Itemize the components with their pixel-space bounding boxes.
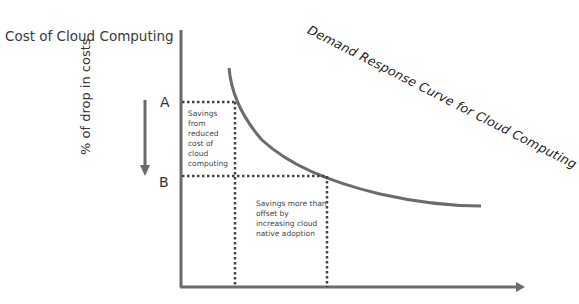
down-arrow-icon — [140, 165, 150, 176]
x-axis-arrowhead-icon — [516, 282, 525, 292]
demand-curve — [229, 68, 481, 206]
